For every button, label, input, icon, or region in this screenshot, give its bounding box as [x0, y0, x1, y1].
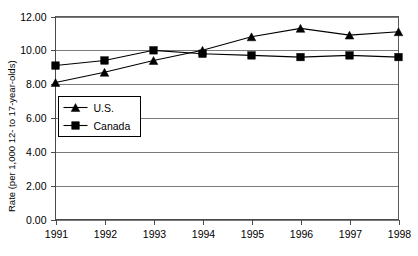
- x-tick-label: 1991: [45, 228, 69, 240]
- x-tick-label: 1995: [241, 228, 265, 240]
- square-marker: [150, 47, 158, 55]
- square-marker: [395, 53, 403, 61]
- square-marker: [52, 62, 60, 70]
- square-marker: [346, 52, 354, 60]
- line-chart: Rate (per 1,000 12- to 17-year-olds) 0.0…: [0, 0, 418, 256]
- x-tick-label: 1992: [94, 228, 118, 240]
- x-tick-label: 1994: [192, 228, 216, 240]
- square-marker: [101, 57, 109, 65]
- chart-svg: Rate (per 1,000 12- to 17-year-olds) 0.0…: [0, 0, 418, 256]
- y-tick-label: 4.00: [26, 146, 47, 158]
- x-tick-label: 1997: [339, 228, 363, 240]
- y-tick-label: 10.00: [20, 44, 46, 56]
- square-marker: [297, 53, 305, 61]
- y-tick-label: 6.00: [26, 112, 47, 124]
- y-tick-label: 0.00: [26, 214, 47, 226]
- square-marker: [248, 52, 256, 60]
- x-tick-label: 1993: [143, 228, 167, 240]
- x-tick-label: 1996: [290, 228, 314, 240]
- square-marker: [72, 122, 80, 130]
- legend-label-u-s: U.S.: [94, 102, 114, 114]
- x-tick-label: 1998: [388, 228, 412, 240]
- chart-legend: U.S.Canada: [59, 97, 141, 137]
- y-tick-label: 12.00: [20, 11, 46, 23]
- y-tick-label: 2.00: [26, 180, 47, 192]
- square-marker: [199, 50, 207, 58]
- legend-label-canada: Canada: [94, 120, 131, 132]
- y-tick-label: 8.00: [26, 78, 47, 90]
- y-axis-title: Rate (per 1,000 12- to 17-year-olds): [6, 60, 17, 212]
